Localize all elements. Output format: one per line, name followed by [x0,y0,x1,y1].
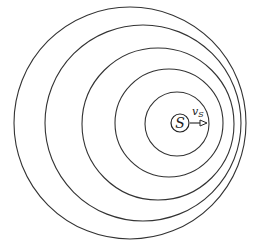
diagram-canvas: S vS [0,0,256,246]
source-label: S [175,115,185,131]
velocity-arrow [190,120,207,126]
wavefront-3 [82,48,234,200]
wavefront-1 [14,7,246,239]
wavefront-2 [45,25,241,221]
arrow-head-icon [200,120,207,126]
wavefronts [14,7,246,239]
doppler-diagram: S vS [0,0,256,246]
velocity-label: vS [192,105,204,119]
